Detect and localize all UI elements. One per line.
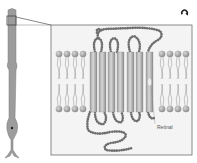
retinal-molecule [148,78,152,86]
diagram: Retinal [0,0,197,163]
retinal-label: Retinal [157,124,173,130]
replay-arrow-icon[interactable] [179,7,190,18]
rhodopsin-figure [0,0,197,163]
rod-cell [5,9,19,159]
connector-line [16,17,51,25]
